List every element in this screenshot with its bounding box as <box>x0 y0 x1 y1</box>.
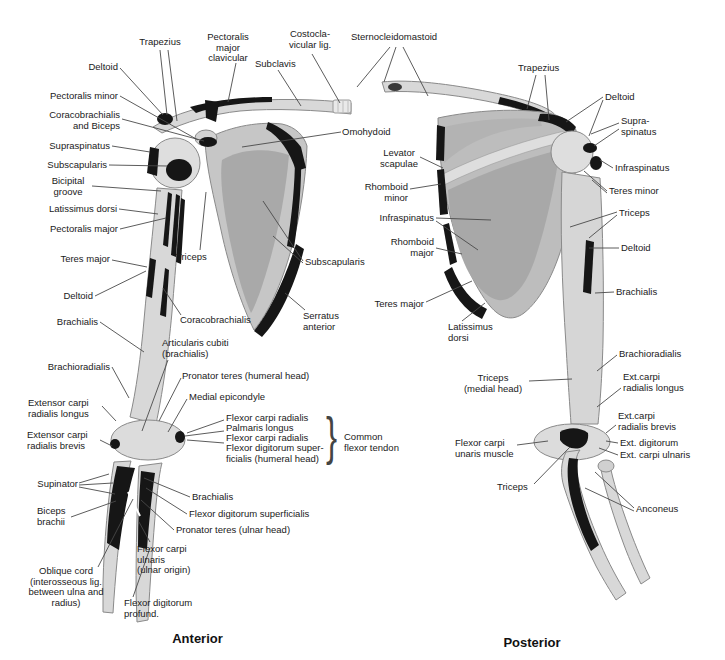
label-deltoid-humerus: Deltoid <box>53 291 93 302</box>
label-infraspinatus-fossa: Infraspinatus <box>372 213 434 224</box>
label-brachioradialis-anterior: Brachioradialis <box>36 362 110 373</box>
label-coracobrachialis-biceps: Coracobrachialis and Biceps <box>34 110 120 131</box>
label-articularis-cubiti: Articularis cubiti (brachialis) <box>162 338 244 359</box>
label-triceps-medial-head: Triceps (medial head) <box>457 373 529 394</box>
label-subscapularis-fossa: Subscapularis <box>305 257 377 268</box>
posterior-humerus <box>561 172 603 424</box>
label-pectoralis-minor: Pectoralis minor <box>38 91 118 102</box>
label-deltoid-posterior-origin: Deltoid <box>605 92 643 103</box>
label-levator-scapulae: Levator scapulae <box>376 148 422 169</box>
label-sternocleidomastoid: Sternocleidomastoid <box>351 32 451 43</box>
label-teres-major-posterior: Teres major <box>368 299 424 310</box>
posterior-figure <box>382 81 650 600</box>
label-brachialis-insertion: Brachialis <box>192 492 244 503</box>
label-deltoid-clavicular: Deltoid <box>78 62 118 73</box>
label-pronator-teres-humeral-head: Pronator teres (humeral head) <box>182 371 330 382</box>
label-subclavis: Subclavis <box>255 59 301 70</box>
label-teres-minor: Teres minor <box>609 186 667 197</box>
label-supraspinatus-posterior: Supra- spinatus <box>621 116 665 137</box>
label-extensor-carpi-radialis-brevis: Extensor carpi radialis brevis <box>27 430 103 451</box>
label-costoclavicular-ligament: Costocla- vicular lig. <box>284 29 336 50</box>
label-triceps-posterior-origin: Triceps <box>619 208 657 219</box>
label-ext-carpi-radialis-brevis: Ext.carpi radialis brevis <box>618 411 690 432</box>
label-ext-digitorum: Ext. digitorum <box>620 438 692 449</box>
label-brachialis-posterior: Brachialis <box>616 287 666 298</box>
label-common-flexor-tendon: Common flexor tendon <box>344 432 408 453</box>
label-anconeus: Anconeus <box>636 504 686 515</box>
label-ext-carpi-ulnaris: Ext. carpi ulnaris <box>620 450 702 461</box>
label-flexor-carpi-ulnaris-muscle: Flexor carpi unaris muscle <box>455 438 523 459</box>
caption-posterior: Posterior <box>493 635 571 650</box>
label-latissimus-dorsi-posterior: Latissimus dorsi <box>448 322 502 343</box>
label-trapezius-posterior: Trapezius <box>518 63 570 74</box>
label-supraspinatus-anterior: Supraspinatus <box>36 141 110 152</box>
common-flexor-tendon-brace: } <box>326 408 337 464</box>
label-pronator-teres-ulnar-head: Pronator teres (ulnar head) <box>176 525 308 536</box>
label-bicipital-groove: Bicipital groove <box>46 176 90 197</box>
label-flexor-digitorum-profundus: Flexor digitorum profund. <box>124 598 208 619</box>
label-supinator: Supinator <box>32 479 78 490</box>
label-oblique-cord: Oblique cord (interosseous lig. between … <box>20 566 112 608</box>
label-medial-epicondyle: Medial epicondyle <box>189 392 281 403</box>
label-subscapularis-tubercle: Subscapularis <box>35 160 107 171</box>
label-flexor-digitorum-superficialis: Flexor digitorum superficialis <box>189 509 337 520</box>
label-rhomboid-major: Rhomboid major <box>385 237 434 258</box>
label-flexor-carpi-ulnaris-ulnar-origin: Flexor carpi ulnaris (ulnar origin) <box>137 544 209 576</box>
label-triceps-olecranon: Triceps <box>497 482 535 493</box>
label-pectoralis-major-clavicular: Pectoralis major clavicular <box>202 32 254 64</box>
caption-anterior: Anterior <box>160 631 235 646</box>
label-coracobrachialis-insertion: Coracobrachialis <box>180 315 264 326</box>
label-rhomboid-minor: Rhomboid minor <box>360 182 408 203</box>
label-trapezius-anterior: Trapezius <box>135 37 185 48</box>
anatomy-diagram: Trapezius Deltoid Pectoralis minor Corac… <box>0 0 725 660</box>
label-omohyoid: Omohydoid <box>342 127 400 138</box>
label-deltoid-posterior-insertion: Deltoid <box>621 243 659 254</box>
label-brachioradialis-posterior: Brachioradialis <box>619 349 693 360</box>
label-ext-carpi-radialis-longus: Ext.carpi radialis longus <box>623 372 697 393</box>
label-latissimus-dorsi-anterior: Latissimus dorsi <box>36 204 117 215</box>
label-pectoralis-major: Pectoralis major <box>40 224 118 235</box>
label-serratus-anterior: Serratus anterior <box>303 311 347 332</box>
label-infraspinatus-tubercle: Infraspinatus <box>615 163 681 174</box>
label-biceps-brachii: Biceps brachii <box>37 506 73 527</box>
label-extensor-carpi-radialis-longus: Extensor carpi radialis longus <box>28 398 104 419</box>
label-triceps-anterior: Triceps <box>176 252 212 263</box>
label-brachialis-anterior: Brachialis <box>52 317 98 328</box>
label-flexor-digitorum-superficialis-humeral: Flexor digitorum super- ficialis (humera… <box>226 443 338 464</box>
label-teres-major-anterior: Teres major <box>50 254 110 265</box>
